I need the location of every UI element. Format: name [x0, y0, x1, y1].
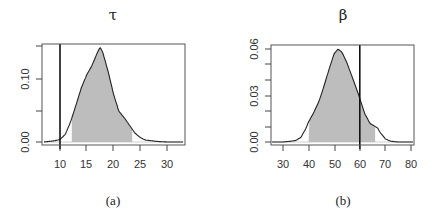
panel-a-caption: (a) — [106, 193, 120, 208]
panel-b-x-tick-1: 40 — [303, 158, 315, 170]
panel-b-x-tick-4: 70 — [379, 158, 391, 170]
figure: τ 0.00 0.10 10 15 20 25 30 (a) β — [0, 0, 433, 219]
panel-a-x-tick-3: 25 — [134, 158, 146, 170]
panel-b-x-tick-5: 80 — [405, 158, 417, 170]
panel-a-x-tick-1: 15 — [80, 158, 92, 170]
panel-a-title: τ — [109, 6, 117, 24]
panel-b: β 0.00 0.03 0.06 30 40 50 60 70 — [248, 6, 417, 208]
panel-a: τ 0.00 0.10 10 15 20 25 30 (a) — [19, 6, 185, 208]
panel-a-y-tick-1: 0.10 — [19, 68, 31, 89]
panel-b-y-tick-1: 0.03 — [248, 85, 260, 106]
credible-interval-shade — [309, 49, 376, 142]
panel-a-y-tick-0: 0.00 — [19, 131, 31, 152]
panel-b-y-tick-0: 0.00 — [248, 131, 260, 152]
panel-a-x-axis: 10 15 20 25 30 — [54, 145, 173, 170]
panel-b-x-tick-3: 60 — [354, 158, 366, 170]
panel-b-x-axis: 30 40 50 60 70 80 — [277, 145, 417, 170]
panel-a-x-tick-0: 10 — [54, 158, 66, 170]
panel-a-x-tick-4: 30 — [161, 158, 173, 170]
panel-b-y-axis: 0.00 0.03 0.06 — [248, 38, 271, 152]
panel-b-x-tick-0: 30 — [277, 158, 289, 170]
panel-b-y-tick-2: 0.06 — [248, 38, 260, 59]
panel-b-title: β — [339, 6, 348, 24]
panel-b-caption: (b) — [335, 193, 350, 208]
panel-b-plot-area — [272, 45, 413, 149]
credible-interval-shade — [72, 48, 132, 142]
panel-a-x-tick-2: 20 — [107, 158, 119, 170]
panel-a-plot-area — [44, 44, 183, 149]
panel-a-y-axis: 0.00 0.10 — [19, 46, 42, 153]
panel-b-x-tick-2: 50 — [329, 158, 341, 170]
